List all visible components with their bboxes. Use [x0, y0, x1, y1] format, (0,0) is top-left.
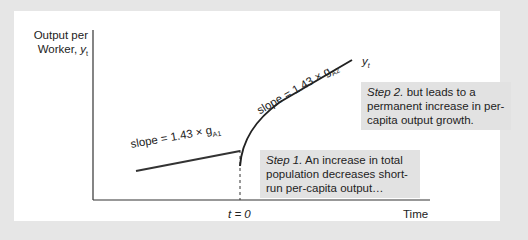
step2-note: Step 2. but leads to a permanent increas…: [361, 82, 511, 130]
step1-lead: Step 1.: [266, 154, 302, 166]
y-label-line2: Worker, yt: [14, 42, 88, 61]
y-label-text: Worker,: [38, 43, 81, 55]
y-axis-label: Output per Worker, yt: [14, 28, 88, 61]
step1-note: Step 1. An increase in total population …: [260, 150, 420, 198]
curve-label: yt: [362, 55, 370, 69]
curve-sub: t: [368, 62, 370, 69]
pre-shock-line: [136, 151, 240, 171]
x-axis-label: Time: [403, 208, 428, 220]
y-label-line1: Output per: [14, 28, 88, 42]
step2-lead: Step 2.: [367, 86, 403, 98]
t0-tick-label: t = 0: [228, 208, 251, 220]
y-label-sub: t: [86, 50, 88, 57]
slope-before-sub: A1: [212, 130, 222, 138]
